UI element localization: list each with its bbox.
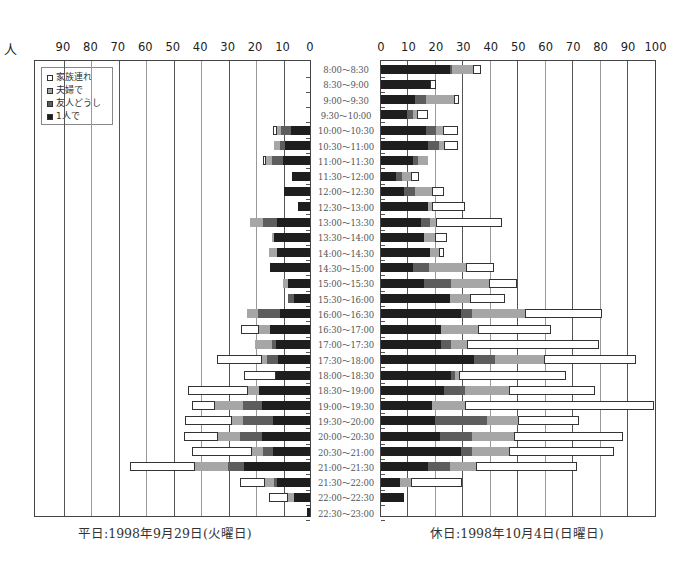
bar-segment-family <box>192 447 252 456</box>
bar-segment-couple <box>195 462 228 471</box>
y-tick <box>381 474 385 475</box>
weekday-bar <box>250 218 310 227</box>
x-tick-label: 10 <box>401 40 416 54</box>
bar-segment-solo <box>381 478 400 487</box>
bar-segment-solo <box>381 279 424 288</box>
bar-segment-friends <box>441 340 451 349</box>
bar-segment-family <box>185 416 232 425</box>
holiday-bar <box>381 309 602 318</box>
bar-segment-couple <box>218 432 240 441</box>
bar-segment-family <box>417 110 428 119</box>
bar-segment-solo <box>278 355 310 364</box>
holiday-bar <box>381 325 551 334</box>
gridline <box>174 61 175 516</box>
weekday-bar <box>247 309 310 318</box>
weekday-bar <box>298 202 310 211</box>
bar-segment-friends <box>461 309 472 318</box>
bar-segment-solo <box>262 401 310 410</box>
x-tick-label: 60 <box>138 40 153 54</box>
bar-segment-couple <box>487 416 519 425</box>
bar-segment-solo <box>381 80 430 89</box>
y-tick <box>306 444 310 445</box>
y-tick <box>381 321 385 322</box>
holiday-bar <box>381 432 623 441</box>
bar-segment-solo <box>270 325 310 334</box>
bar-segment-solo <box>381 447 461 456</box>
bar-segment-solo <box>381 126 426 135</box>
weekday-bar <box>255 340 310 349</box>
x-tick-label: 0 <box>377 40 384 54</box>
legend-label: 友人どうし <box>56 97 101 110</box>
x-tick-label: 100 <box>645 40 667 54</box>
bar-segment-solo <box>273 447 310 456</box>
y-tick <box>381 260 385 261</box>
bar-segment-friends <box>228 462 244 471</box>
bar-segment-solo <box>381 371 451 380</box>
y-tick <box>306 275 310 276</box>
y-tick <box>306 383 310 384</box>
bar-segment-family <box>188 386 248 395</box>
weekday-bar <box>263 156 310 165</box>
bar-segment-family <box>443 126 458 135</box>
bar-segment-couple <box>424 233 435 242</box>
bar-segment-solo <box>280 309 310 318</box>
bar-segment-friends <box>240 432 262 441</box>
y-tick <box>306 260 310 261</box>
bar-segment-solo <box>298 202 310 211</box>
x-tick-label: 70 <box>111 40 126 54</box>
y-tick <box>306 398 310 399</box>
y-tick <box>306 490 310 491</box>
y-tick <box>306 520 310 521</box>
bar-segment-couple <box>451 279 489 288</box>
weekday-bar <box>270 263 310 272</box>
time-slot-label: 22:30〜23:00 <box>316 507 376 519</box>
bar-segment-family <box>514 432 622 441</box>
bar-segment-solo <box>381 187 404 196</box>
bar-segment-couple <box>252 447 263 456</box>
weekday-bar <box>274 141 310 150</box>
time-slot-label: 8:30〜9:00 <box>316 78 376 90</box>
holiday-bar <box>381 172 419 181</box>
bar-segment-family <box>130 462 195 471</box>
y-tick <box>381 275 385 276</box>
bar-segment-solo <box>294 493 310 502</box>
y-tick <box>306 321 310 322</box>
bar-segment-solo <box>244 462 310 471</box>
weekday-bar <box>241 325 310 334</box>
bar-segment-solo <box>381 432 440 441</box>
bar-segment-friends <box>440 432 472 441</box>
bar-segment-family <box>525 309 602 318</box>
bar-segment-family <box>476 462 578 471</box>
bar-segment-solo <box>381 493 404 502</box>
bar-segment-solo <box>381 65 450 74</box>
y-tick <box>381 520 385 521</box>
x-tick-label: 30 <box>220 40 235 54</box>
bar-segment-family <box>184 432 218 441</box>
bar-segment-couple <box>430 248 438 257</box>
bar-segment-friends <box>258 309 280 318</box>
y-tick <box>381 77 385 78</box>
time-slot-label: 15:30〜16:00 <box>316 293 376 305</box>
holiday-bar <box>381 202 465 211</box>
y-tick <box>381 413 385 414</box>
bar-segment-couple <box>402 172 412 181</box>
bar-segment-couple <box>248 386 259 395</box>
y-tick <box>381 398 385 399</box>
bar-segment-friends <box>267 355 278 364</box>
weekday-bar <box>192 447 310 456</box>
y-tick <box>381 245 385 246</box>
bar-segment-family <box>430 80 435 89</box>
time-slot-label: 17:30〜18:00 <box>316 354 376 366</box>
weekday-caption: 平日:1998年9月29日(火曜日) <box>78 523 252 542</box>
holiday-bar <box>381 294 505 303</box>
y-tick <box>306 337 310 338</box>
bar-segment-solo <box>381 263 413 272</box>
bar-segment-family <box>454 95 459 104</box>
weekday-bar <box>284 187 310 196</box>
time-slot-label: 11:00〜11:30 <box>316 155 376 167</box>
bar-segment-couple <box>215 401 242 410</box>
bar-segment-solo <box>284 187 310 196</box>
bar-segment-couple <box>415 187 431 196</box>
holiday-bar <box>381 218 502 227</box>
weekday-bar <box>184 432 310 441</box>
